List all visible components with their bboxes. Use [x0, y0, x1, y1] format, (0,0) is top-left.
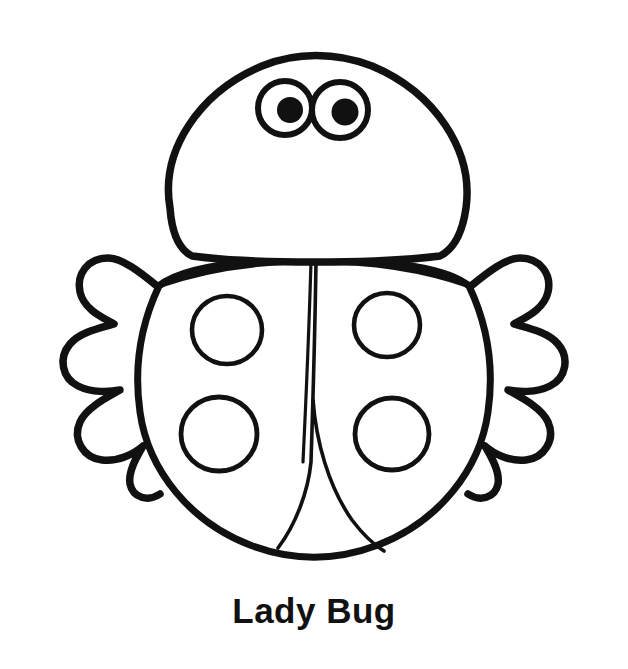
spot-top-left [192, 296, 262, 364]
left-pupil [277, 97, 303, 123]
spot-bottom-left [181, 397, 257, 471]
page-title: Lady Bug [0, 590, 628, 632]
ladybug-svg [0, 0, 628, 669]
spot-top-right [354, 293, 420, 357]
ladybug-illustration [0, 0, 628, 669]
coloring-page: Lady Bug [0, 0, 628, 669]
spot-bottom-right [355, 398, 429, 470]
head-outline [168, 56, 467, 263]
right-pupil [332, 99, 359, 126]
